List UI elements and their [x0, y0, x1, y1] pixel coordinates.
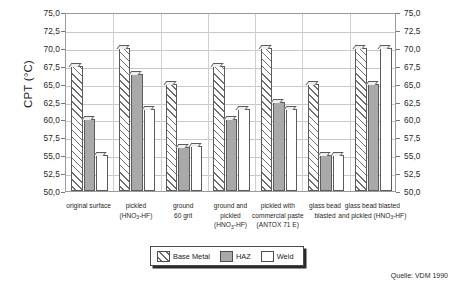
x-category-label-7: glass bead blastedand pickled (HNO3-HF)	[317, 201, 427, 221]
y-tick-mark-left	[61, 13, 65, 14]
diagonal-hatch-swatch	[157, 251, 170, 262]
bar-base-metal-group-7	[355, 48, 367, 191]
y-tick-mark-right	[396, 85, 400, 86]
bar-base-metal-group-6	[308, 84, 320, 191]
bar-weld-group-5	[286, 109, 298, 191]
y-tick-mark-left	[61, 103, 65, 104]
bar-top-cap	[69, 63, 82, 67]
group-separator	[208, 14, 209, 191]
y-tick-label-left: 62,5	[22, 98, 60, 108]
legend-label-base-metal: Base Metal	[173, 252, 210, 261]
legend: Base MetalHAZWeld	[150, 246, 304, 266]
bar-base-metal-group-4	[213, 66, 225, 191]
bar-top-cap	[270, 99, 283, 103]
gridline	[66, 68, 395, 69]
bar-top-cap	[188, 143, 201, 147]
gridline	[66, 104, 395, 105]
gridline	[66, 32, 395, 33]
bar-weld-group-1	[96, 155, 108, 191]
bar-weld-group-2	[144, 109, 156, 191]
white-swatch	[261, 251, 274, 262]
y-tick-label-left: 75,0	[22, 8, 60, 18]
bar-top-cap	[94, 152, 107, 156]
group-separator	[161, 14, 162, 191]
y-tick-mark-right	[396, 31, 400, 32]
bar-top-cap	[223, 116, 236, 120]
legend-label-weld: Weld	[277, 252, 294, 261]
bar-top-cap	[330, 152, 343, 156]
y-tick-label-left: 55,0	[22, 151, 60, 161]
y-tick-mark-right	[396, 49, 400, 50]
y-tick-mark-left	[61, 174, 65, 175]
y-tick-mark-left	[61, 120, 65, 121]
y-tick-mark-right	[396, 138, 400, 139]
y-tick-label-left: 70,0	[22, 44, 60, 54]
y-tick-mark-right	[396, 120, 400, 121]
y-tick-mark-left	[61, 156, 65, 157]
gray-swatch	[220, 251, 233, 262]
bar-top-cap	[305, 81, 318, 85]
y-tick-mark-right	[396, 192, 400, 193]
y-tick-label-left: 72,5	[22, 26, 60, 36]
bar-top-cap	[236, 106, 249, 110]
y-tick-label-right: 65,0	[404, 80, 444, 90]
y-tick-label-right: 62,5	[404, 98, 444, 108]
bar-haz-group-5	[273, 102, 285, 192]
bar-top-cap	[129, 71, 142, 75]
y-tick-label-left: 57,5	[22, 133, 60, 143]
y-tick-mark-left	[61, 85, 65, 86]
bar-weld-group-6	[333, 155, 345, 191]
group-separator	[302, 14, 303, 191]
bar-weld-group-3	[191, 146, 203, 191]
bar-top-cap	[116, 45, 129, 49]
bar-top-cap	[258, 45, 271, 49]
y-tick-mark-right	[396, 156, 400, 157]
bar-base-metal-group-1	[71, 66, 83, 191]
bar-top-cap	[176, 144, 189, 148]
y-tick-mark-left	[61, 49, 65, 50]
y-tick-label-right: 55,0	[404, 151, 444, 161]
bar-haz-group-3	[178, 147, 190, 191]
bar-base-metal-group-2	[119, 48, 131, 191]
bar-haz-group-6	[320, 155, 332, 191]
y-tick-label-left: 52,5	[22, 169, 60, 179]
y-tick-label-left: 50,0	[22, 187, 60, 197]
y-tick-label-right: 70,0	[404, 44, 444, 54]
y-tick-label-right: 67,5	[404, 62, 444, 72]
y-tick-mark-right	[396, 67, 400, 68]
y-tick-mark-left	[61, 192, 65, 193]
y-tick-mark-right	[396, 13, 400, 14]
y-tick-label-right: 72,5	[404, 26, 444, 36]
bar-top-cap	[378, 45, 391, 49]
bar-haz-group-4	[226, 119, 238, 191]
bar-top-cap	[365, 81, 378, 85]
y-tick-label-right: 75,0	[404, 8, 444, 18]
plot-area	[65, 13, 396, 192]
bar-base-metal-group-5	[261, 48, 273, 191]
y-tick-label-right: 50,0	[404, 187, 444, 197]
bar-top-cap	[141, 106, 154, 110]
y-tick-label-right: 57,5	[404, 133, 444, 143]
bar-top-cap	[318, 152, 331, 156]
source-note: Quelle: VDM 1990	[391, 272, 448, 279]
bar-top-cap	[283, 106, 296, 110]
chart-container: CPT (°C) original surfacepickled(HNO3-HF…	[0, 0, 456, 286]
legend-label-haz: HAZ	[236, 252, 251, 261]
bar-top-cap	[211, 63, 224, 67]
y-tick-label-right: 52,5	[404, 169, 444, 179]
gridline	[66, 50, 395, 51]
y-tick-label-left: 67,5	[22, 62, 60, 72]
bar-top-cap	[81, 116, 94, 120]
bar-weld-group-7	[380, 48, 392, 191]
bar-top-cap	[353, 45, 366, 49]
group-separator	[350, 14, 351, 191]
y-tick-label-right: 60,0	[404, 115, 444, 125]
bar-top-cap	[163, 81, 176, 85]
bar-weld-group-4	[238, 109, 250, 191]
y-tick-mark-left	[61, 31, 65, 32]
bar-haz-group-7	[368, 84, 380, 191]
group-separator	[255, 14, 256, 191]
gridline	[66, 86, 395, 87]
y-tick-mark-left	[61, 138, 65, 139]
y-tick-mark-right	[396, 174, 400, 175]
